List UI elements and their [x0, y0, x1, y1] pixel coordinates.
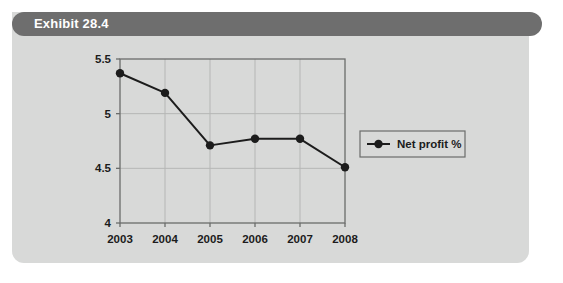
x-axis-tick-label: 2007	[287, 233, 313, 245]
plot-area-background	[120, 59, 345, 223]
data-point-marker	[341, 163, 349, 171]
net-profit-line-chart: 44.555.5 200320042005200620072008 Net pr…	[0, 36, 517, 251]
exhibit-title-bar: Exhibit 28.4	[12, 12, 542, 36]
y-axis-tick-label: 4	[105, 217, 112, 229]
legend-label-net-profit: Net profit %	[397, 138, 462, 150]
data-point-marker	[251, 135, 259, 143]
x-axis-tick-label: 2003	[107, 233, 133, 245]
x-axis-tick-label: 2005	[197, 233, 223, 245]
data-point-marker	[116, 69, 124, 77]
legend-marker-icon	[374, 140, 382, 148]
data-point-marker	[206, 141, 214, 149]
x-axis-tick-label: 2006	[242, 233, 268, 245]
x-axis-tick-labels: 200320042005200620072008	[107, 233, 358, 245]
exhibit-title: Exhibit 28.4	[34, 16, 109, 31]
x-axis-tick-label: 2008	[332, 233, 358, 245]
chart-container: 44.555.5 200320042005200620072008 Net pr…	[0, 36, 517, 251]
data-point-marker	[161, 89, 169, 97]
gridlines-group	[120, 59, 345, 223]
x-axis-tick-label: 2004	[152, 233, 178, 245]
data-point-marker	[296, 135, 304, 143]
y-axis-tick-labels: 44.555.5	[95, 53, 112, 229]
chart-legend: Net profit %	[360, 131, 465, 157]
y-axis-tick-label: 5.5	[95, 53, 112, 65]
y-axis-tick-label: 4.5	[95, 162, 112, 174]
y-axis-tick-label: 5	[105, 108, 112, 120]
